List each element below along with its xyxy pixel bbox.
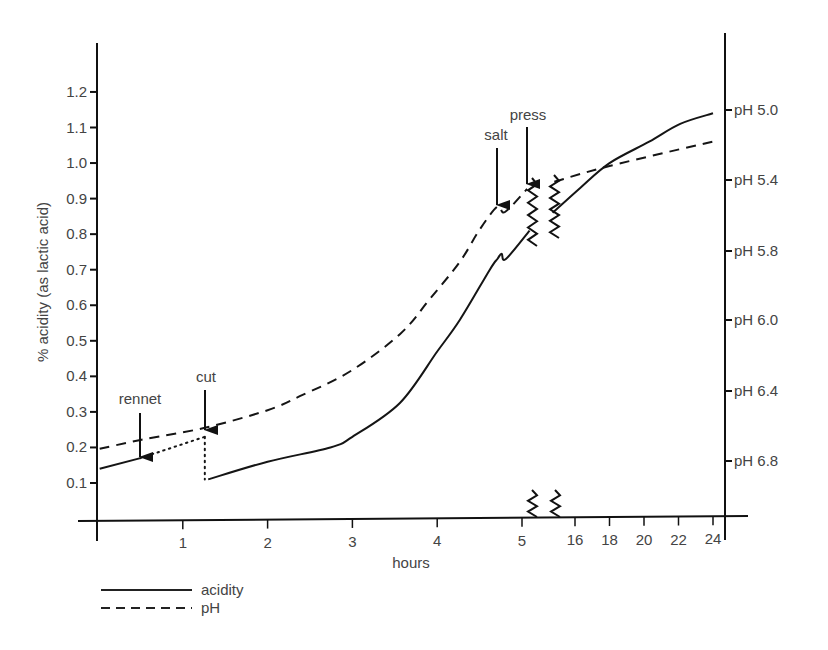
right-y-axis-ticks: pH 5.0pH 5.4pH 5.8pH 6.0pH 6.4pH 6.8 <box>725 101 778 469</box>
x-tick-label: 24 <box>705 530 722 547</box>
y-tick-label: 0.8 <box>66 225 87 242</box>
x-tick-label: 2 <box>263 534 271 551</box>
annotation-press: press <box>510 106 547 184</box>
series-acidity <box>100 113 713 479</box>
ph-line-segment <box>554 142 713 182</box>
y-tick-label: 1.2 <box>66 83 87 100</box>
x-tick-label: 16 <box>567 531 584 548</box>
acidity-line-segment <box>140 437 204 458</box>
left-y-axis-ticks: 0.10.20.30.40.50.60.70.80.91.01.11.2 <box>66 83 97 491</box>
y2-tick-label: pH 5.4 <box>734 171 778 188</box>
y-tick-label: 0.9 <box>66 190 87 207</box>
legend: acidity pH <box>101 581 244 616</box>
x-tick-label: 3 <box>348 533 356 550</box>
y2-tick-label: pH 6.0 <box>734 311 778 328</box>
y-tick-label: 0.6 <box>66 296 87 313</box>
axis-break-left-icon <box>528 490 537 517</box>
x-tick-label: 22 <box>670 531 687 548</box>
annotation-salt: salt <box>484 126 508 205</box>
y-tick-label: 0.2 <box>66 438 87 455</box>
annotation-rennet: rennet <box>119 390 162 457</box>
legend-acidity-label: acidity <box>201 581 244 598</box>
y-tick-label: 0.3 <box>66 403 87 420</box>
x-tick-label: 18 <box>601 531 618 548</box>
series-ph <box>100 142 713 449</box>
y-tick-label: 0.5 <box>66 332 87 349</box>
x-tick-label: 4 <box>433 532 441 549</box>
axis-break-right-icon <box>551 490 560 517</box>
y-tick-label: 0.7 <box>66 261 87 278</box>
legend-ph-label: pH <box>201 599 220 616</box>
acidity-line-segment <box>208 231 529 480</box>
axes <box>78 33 748 541</box>
annotation-cut: cut <box>196 368 217 430</box>
y2-tick-label: pH 6.8 <box>734 452 778 469</box>
acidity-line-segment <box>100 458 141 469</box>
curve-break-left-icon <box>528 178 537 246</box>
rennet-label: rennet <box>119 390 162 407</box>
y2-tick-label: pH 5.8 <box>734 242 778 259</box>
x-axis <box>78 516 748 521</box>
x-tick-label: 1 <box>179 534 187 551</box>
y-tick-label: 1.0 <box>66 154 87 171</box>
curve-break-right-icon <box>550 175 559 238</box>
x-tick-label: 20 <box>636 531 653 548</box>
y-tick-label: 1.1 <box>66 119 87 136</box>
y-tick-label: 0.1 <box>66 474 87 491</box>
y-axis-title: % acidity (as lactic acid) <box>34 202 51 362</box>
press-label: press <box>510 106 547 123</box>
y2-tick-label: pH 6.4 <box>734 382 778 399</box>
y2-tick-label: pH 5.0 <box>734 101 778 118</box>
x-tick-label: 5 <box>518 532 526 549</box>
cut-label: cut <box>196 368 217 385</box>
y-tick-label: 0.4 <box>66 367 87 384</box>
ph-line-segment <box>100 189 527 449</box>
series-layer <box>100 113 713 479</box>
salt-label: salt <box>484 126 508 143</box>
x-axis-title: hours <box>392 554 430 571</box>
acidity-line-segment <box>553 113 713 213</box>
x-axis-ticks: 123451618202224 <box>179 516 722 551</box>
axis-break-markers <box>528 175 560 517</box>
cheese-acidity-ph-chart: 0.10.20.30.40.50.60.70.80.91.01.11.2 pH … <box>0 0 828 650</box>
